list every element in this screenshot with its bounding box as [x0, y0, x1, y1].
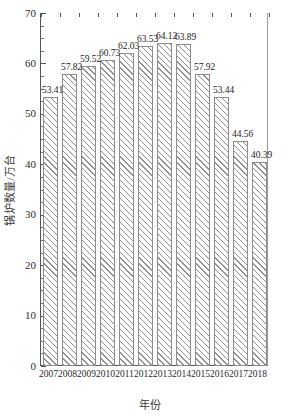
- x-axis-tick: [231, 13, 232, 17]
- x-axis-tick: [41, 13, 42, 17]
- y-axis-tick-label: 30: [2, 209, 36, 220]
- x-axis-tick-label: 2014: [172, 370, 191, 380]
- x-axis-tick-label: 2008: [58, 370, 77, 380]
- bar-value-label: 53.44: [213, 86, 234, 96]
- y-axis-tick-label: 20: [2, 260, 36, 271]
- plot-area: 53.4157.8259.5260.7362.0363.5364.1263.89…: [40, 13, 268, 366]
- bar-value-label: 44.56: [232, 130, 253, 140]
- bar: [81, 66, 95, 366]
- bar: [119, 53, 133, 366]
- y-axis-tick-label: 0: [2, 361, 36, 372]
- x-axis-tick: [155, 13, 156, 17]
- y-axis-minor-tick: [41, 38, 44, 39]
- y-axis-major-tick: [41, 63, 46, 64]
- y-axis-major-tick: [41, 366, 46, 367]
- bar: [43, 97, 57, 366]
- x-axis-tick-label: 2009: [77, 370, 96, 380]
- bar: [195, 74, 209, 366]
- x-axis-title: 年份: [0, 396, 300, 412]
- x-axis-tick: [60, 13, 61, 17]
- bar: [100, 60, 114, 366]
- bar-value-label: 57.92: [194, 63, 215, 73]
- x-axis-tick-label: 2016: [210, 370, 229, 380]
- y-axis-tick-label: 40: [2, 159, 36, 170]
- bar: [252, 162, 266, 366]
- x-axis-tick: [98, 13, 99, 17]
- x-axis-tick: [269, 13, 270, 17]
- x-axis-tick: [212, 13, 213, 17]
- x-axis-tick-label: 2011: [115, 370, 134, 380]
- bar-value-label: 57.82: [61, 63, 82, 73]
- x-axis-tick-label: 2017: [229, 370, 248, 380]
- y-axis-tick-label: 70: [2, 8, 36, 19]
- y-axis-minor-tick: [41, 26, 44, 27]
- x-axis-tick-label: 2018: [248, 370, 267, 380]
- x-axis-tick: [193, 13, 194, 17]
- bar-chart: 锅炉数量/万台 年份 53.4157.8259.5260.7362.0363.5…: [0, 0, 300, 418]
- y-axis-tick-label: 50: [2, 108, 36, 119]
- x-axis-tick-label: 2007: [39, 370, 58, 380]
- bar: [233, 141, 247, 366]
- x-axis-tick-label: 2015: [191, 370, 210, 380]
- y-axis-minor-tick: [41, 51, 44, 52]
- x-axis-tick-label: 2012: [134, 370, 153, 380]
- bar: [138, 46, 152, 366]
- bar: [157, 43, 171, 366]
- x-axis-tick-label: 2013: [153, 370, 172, 380]
- bar: [214, 97, 228, 366]
- x-axis-title-label: 年份: [139, 399, 161, 411]
- x-axis-tick: [250, 13, 251, 17]
- y-axis-tick-label: 10: [2, 310, 36, 321]
- bar: [62, 74, 76, 366]
- x-axis-tick: [174, 13, 175, 17]
- y-axis-minor-tick: [41, 76, 44, 77]
- bar: [176, 44, 190, 366]
- y-axis-tick-label: 60: [2, 58, 36, 69]
- bar-value-label: 63.89: [175, 33, 196, 43]
- x-axis-tick: [136, 13, 137, 17]
- x-axis-tick: [117, 13, 118, 17]
- bar-value-label: 40.39: [251, 151, 272, 161]
- x-axis-tick: [79, 13, 80, 17]
- bar-value-label: 53.41: [42, 86, 63, 96]
- x-axis-tick-label: 2010: [96, 370, 115, 380]
